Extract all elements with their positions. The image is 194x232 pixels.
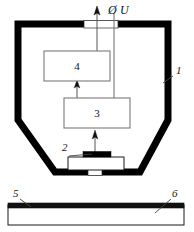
detector-assembly	[68, 152, 124, 171]
substrate-plate	[8, 203, 184, 225]
callout-label-2: 2	[62, 141, 68, 153]
lower-processing-block-label: 3	[94, 107, 100, 119]
callout-label-6: 6	[172, 187, 178, 199]
upper-processing-block-label: 4	[74, 60, 80, 72]
detector-body	[68, 157, 124, 170]
output-signal-path	[94, 6, 100, 51]
top-window-aperture	[84, 21, 118, 29]
callout-label-1: 1	[176, 64, 182, 76]
detector-to-block3-arrow-head	[92, 130, 98, 139]
substrate-top-layer	[8, 203, 184, 208]
phi-symbol: Ø	[107, 3, 118, 17]
voltage-symbol: U	[120, 3, 130, 17]
lower-processing-block[interactable]: 3	[64, 98, 130, 128]
technical-diagram: 4 3 1 2 5 6 Ø U	[0, 0, 194, 232]
upper-processing-block[interactable]: 4	[44, 51, 110, 81]
callout-label-5: 5	[13, 187, 19, 199]
block3-to-block4-link	[74, 80, 80, 98]
